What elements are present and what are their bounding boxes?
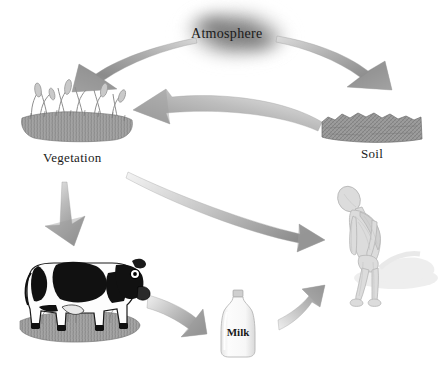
arrow-vegetation-to-human (126, 172, 325, 252)
soil-label: Soil (361, 146, 383, 162)
diagram-canvas: Atmosphere (0, 0, 442, 368)
cow-node (12, 243, 152, 348)
human-figure-icon (322, 182, 440, 310)
arrow-atmosphere-to-soil (276, 36, 392, 90)
arrow-cow-to-milk (147, 295, 207, 337)
milk-bottle-text: Milk (227, 326, 250, 338)
soil-node (319, 108, 425, 146)
human-node (322, 182, 440, 310)
grass-icon (18, 72, 136, 144)
arrow-vegetation-to-cow (45, 182, 85, 246)
arrow-milk-to-human (278, 285, 325, 330)
vegetation-node (18, 72, 136, 144)
milk-node: Milk (214, 288, 262, 360)
soil-block-icon (319, 108, 425, 146)
cow-icon (12, 243, 152, 348)
milk-bottle-icon: Milk (214, 288, 262, 360)
vegetation-label: Vegetation (43, 150, 102, 166)
arrow-soil-to-vegetation (133, 89, 322, 131)
